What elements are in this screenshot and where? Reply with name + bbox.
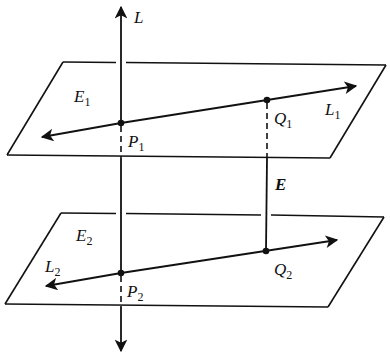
label-p2: P2 xyxy=(126,282,143,304)
line-l1 xyxy=(121,86,356,123)
label-l2: L2 xyxy=(44,257,60,279)
label-e1: E1 xyxy=(73,87,90,109)
segment-e xyxy=(266,103,267,251)
point-q1 xyxy=(264,97,271,104)
label-e2: E2 xyxy=(75,226,92,248)
label-l1: L1 xyxy=(324,100,340,122)
label-p1: P1 xyxy=(127,132,144,154)
two-parallel-planes-diagram: L E1 P1 Q1 L1 E E2 L2 P2 Q2 xyxy=(0,0,390,359)
label-q2: Q2 xyxy=(274,260,292,282)
line-l1-left xyxy=(42,123,121,137)
label-e: E xyxy=(274,175,286,194)
point-q2 xyxy=(263,248,270,255)
line-l2 xyxy=(121,240,337,273)
point-p2 xyxy=(118,270,125,277)
label-q1: Q1 xyxy=(274,109,292,131)
label-l: L xyxy=(133,8,143,27)
plane-e2 xyxy=(5,213,384,307)
point-p1 xyxy=(118,120,125,127)
